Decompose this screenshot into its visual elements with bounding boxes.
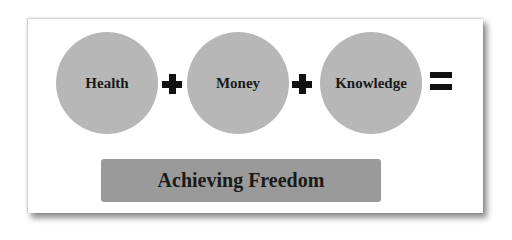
circle-label: Money	[216, 75, 260, 92]
equals-icon	[430, 72, 452, 90]
circle-money: Money	[187, 32, 289, 134]
result-banner: Achieving Freedom	[101, 159, 381, 202]
plus-icon	[162, 74, 182, 94]
circle-knowledge: Knowledge	[320, 32, 422, 134]
circle-label: Health	[85, 75, 128, 92]
result-label: Achieving Freedom	[158, 169, 325, 192]
circle-health: Health	[56, 32, 158, 134]
circle-label: Knowledge	[335, 75, 407, 92]
plus-icon	[292, 74, 312, 94]
